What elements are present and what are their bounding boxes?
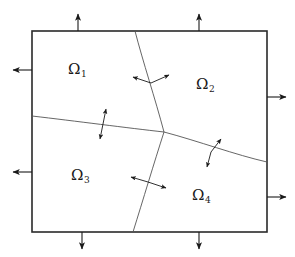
omega-symbol: Ω xyxy=(68,60,80,78)
figure-canvas: Ω1 Ω2 Ω3 Ω4 xyxy=(0,0,295,257)
omega-subscript: 1 xyxy=(80,69,86,79)
omega-symbol: Ω xyxy=(192,186,204,204)
omega-subscript: 4 xyxy=(204,195,210,205)
domain-decomposition-diagram xyxy=(0,0,295,257)
omega-subscript: 2 xyxy=(208,84,214,94)
region-label-omega-2: Ω2 xyxy=(196,77,215,94)
omega-symbol: Ω xyxy=(196,75,208,93)
omega-symbol: Ω xyxy=(71,166,83,184)
region-label-omega-3: Ω3 xyxy=(71,168,90,185)
region-label-omega-4: Ω4 xyxy=(192,188,211,205)
region-label-omega-1: Ω1 xyxy=(68,62,87,79)
omega-subscript: 3 xyxy=(83,175,89,185)
